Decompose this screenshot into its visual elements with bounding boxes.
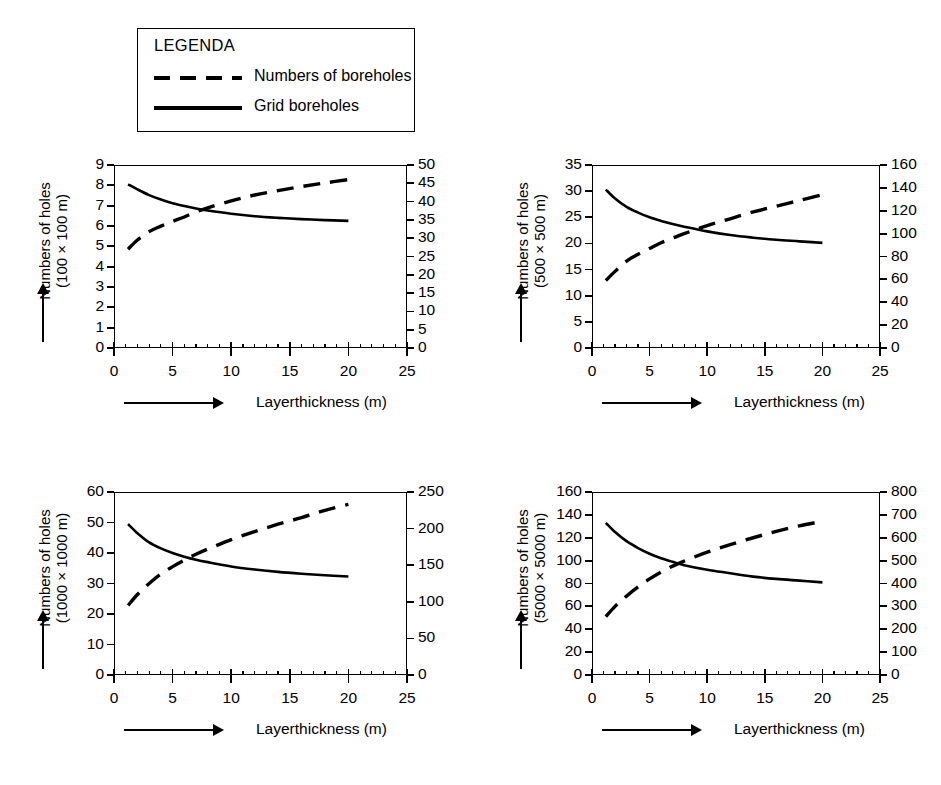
chart-grid-5000x5000: 0204060801001201401600100200300400500600…: [0, 0, 941, 785]
series-grid-boreholes: [606, 523, 823, 582]
figure-four-borehole-charts: LEGENDA Numbers of boreholes Grid boreho…: [0, 0, 941, 785]
curve-layer: [0, 0, 941, 785]
series-numbers-of-boreholes: [606, 521, 823, 616]
